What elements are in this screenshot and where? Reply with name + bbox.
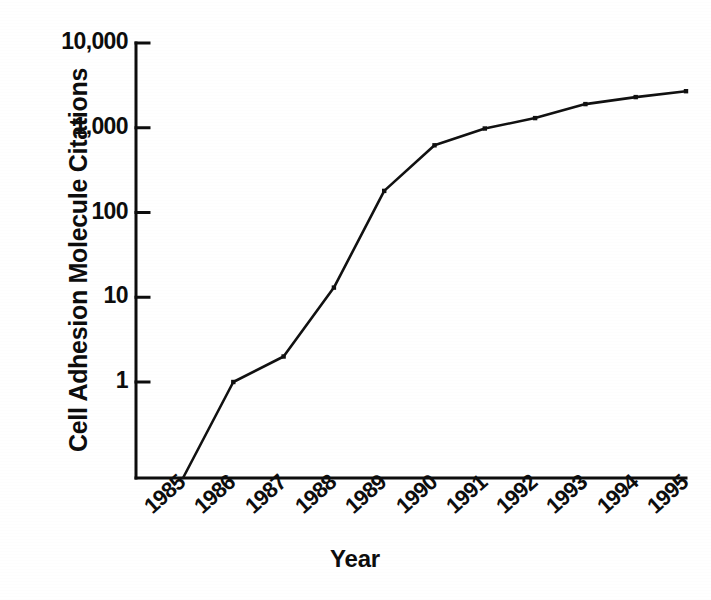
data-series-line [183,91,686,478]
axis-ticks [136,43,149,382]
data-point-marker [684,89,688,93]
data-point-markers [231,89,688,384]
chart-figure: Cell Adhesion Molecule Citations 1101001… [0,0,711,600]
data-point-marker [432,143,436,147]
data-point-marker [483,126,487,130]
data-point-marker [533,116,537,120]
data-point-marker [382,189,386,193]
series-polyline [183,91,686,478]
data-point-marker [332,285,336,289]
plot-area [0,0,711,600]
data-point-marker [583,102,587,106]
data-point-marker [281,354,285,358]
x-axis-title: Year [330,545,380,573]
data-point-marker [231,380,235,384]
data-point-marker [634,95,638,99]
